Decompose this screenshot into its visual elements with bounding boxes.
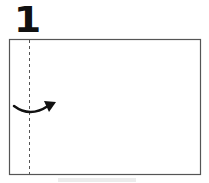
caption-shadow (58, 178, 136, 182)
paper-sheet (10, 40, 201, 175)
folding-diagram (0, 0, 209, 183)
